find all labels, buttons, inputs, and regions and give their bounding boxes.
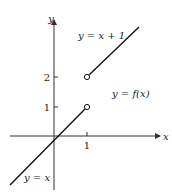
x-axis-label: x — [163, 131, 169, 142]
y-tick-label-2: 2 — [44, 72, 50, 83]
open-circle-1-1 — [84, 104, 89, 109]
open-circle-1-2 — [84, 74, 89, 79]
y-axis-label: y — [47, 13, 54, 24]
label-upper-line: y = x + 1 — [77, 30, 125, 41]
label-lower-line: y = x — [23, 172, 50, 183]
piecewise-function-graph: y x 1 1 2 y = x + 1 y = f(x) y = x — [0, 0, 172, 194]
x-tick-label-1: 1 — [84, 140, 90, 151]
label-function: y = f(x) — [111, 88, 150, 99]
y-tick-label-1: 1 — [44, 102, 50, 113]
